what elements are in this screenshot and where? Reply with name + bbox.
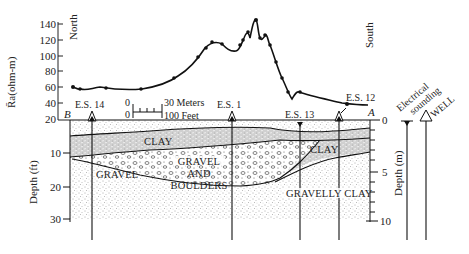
depth-ft-30: 30 <box>50 213 62 225</box>
tick-60: 60 <box>45 81 57 93</box>
direction-north: North <box>67 14 79 40</box>
lith-clay-top: CLAY <box>144 136 173 147</box>
depth-m-5: 5 <box>382 166 388 178</box>
section-end-b: B <box>64 108 71 120</box>
scale-imperial-label: 100 Feet <box>164 110 199 121</box>
tick-80: 80 <box>45 65 57 77</box>
depth-m-axis: 0 5 10 Depth (m) <box>366 114 405 227</box>
depth-ft-axis: 10 20 30 Depth (ft) <box>27 147 70 225</box>
tick-140: 140 <box>40 18 57 30</box>
section-end-a: A <box>367 106 375 118</box>
depth-m-0: 0 <box>382 114 388 126</box>
lith-gravelly-clay: GRAVELLY CLAY <box>286 188 373 199</box>
label-es13: E.S. 13 <box>285 109 314 120</box>
cross-section-diagram: 140 120 100 80 60 40 20 R̄a(ohm-m) North… <box>0 0 469 254</box>
lith-gravel-boulders-3: BOULDERS <box>170 180 227 191</box>
direction-south: South <box>363 22 375 48</box>
label-es12: E.S. 12 <box>346 92 375 103</box>
label-es1: E.S. 1 <box>217 99 241 110</box>
label-es14: E.S. 14 <box>75 99 104 110</box>
tick-120: 120 <box>40 34 57 46</box>
depth-ft-10: 10 <box>50 147 62 159</box>
depth-m-10: 10 <box>380 215 392 227</box>
scale-imperial-zero: 0 <box>125 109 130 120</box>
resistivity-axis: 140 120 100 80 60 40 20 R̄a(ohm-m) <box>5 18 70 125</box>
scale-metric-label: 30 Meters <box>164 97 204 108</box>
lith-gravel-boulders-1: GRAVEL <box>178 156 220 167</box>
tick-100: 100 <box>40 50 57 62</box>
resistivity-curve <box>71 18 368 106</box>
tick-40: 40 <box>45 97 57 109</box>
depth-ft-label: Depth (ft) <box>27 160 40 204</box>
resistivity-axis-label: R̄a(ohm-m) <box>5 56 18 108</box>
depth-m-label: Depth (m) <box>392 150 405 196</box>
lith-gravel-boulders-2: AND <box>187 168 211 179</box>
lith-clay-right: CLAY <box>310 144 339 155</box>
scale-metric-zero: 0 <box>125 97 130 108</box>
scale-bar: 0 0 30 Meters 100 Feet <box>125 97 204 121</box>
depth-ft-20: 20 <box>50 181 62 193</box>
lith-gravel: GRAVEL <box>96 169 138 180</box>
tick-20: 20 <box>45 113 57 125</box>
